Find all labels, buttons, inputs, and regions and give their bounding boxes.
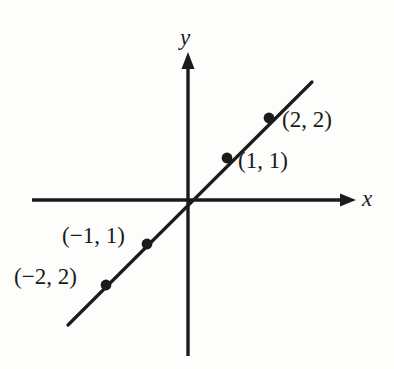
point-label-neg2-2: (−2, 2) — [14, 265, 77, 288]
y-axis-arrowhead-icon — [182, 52, 195, 69]
data-point-neg1-1 — [142, 239, 153, 250]
point-label-neg1-1: (−1, 1) — [62, 224, 125, 247]
data-point-1-1 — [222, 153, 233, 164]
point-label-2-2: (2, 2) — [282, 108, 332, 131]
y-axis-label: y — [180, 26, 190, 49]
x-axis-arrowhead-icon — [340, 194, 356, 207]
data-point-2-2 — [264, 113, 275, 124]
x-axis-label: x — [362, 187, 372, 210]
data-point-neg2-2 — [101, 280, 112, 291]
point-label-1-1: (1, 1) — [238, 149, 288, 172]
graph-figure: x y (2, 2) (1, 1) (−1, 1) (−2, 2) — [0, 0, 394, 369]
coordinate-plane-svg — [0, 0, 394, 369]
